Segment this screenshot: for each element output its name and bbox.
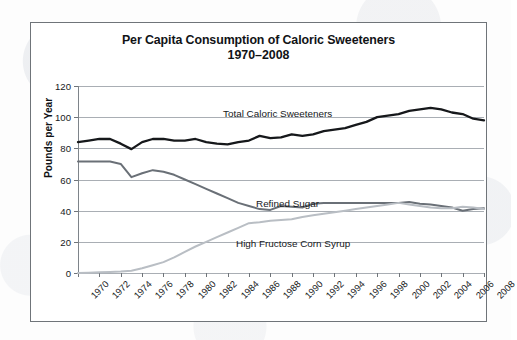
y-axis-tick-label: 20 <box>60 236 71 247</box>
x-axis-tick <box>441 273 442 277</box>
x-axis-tick-label: 1996 <box>367 279 389 301</box>
x-axis-tick-label: 1992 <box>324 279 346 301</box>
x-axis-tick <box>356 273 357 277</box>
x-axis-tick-label: 1990 <box>303 279 325 301</box>
x-axis-tick <box>121 273 122 277</box>
plot-wrap: 020406080100120 197019721974197619781980… <box>31 23 486 321</box>
series-label-high-fructose-corn-syrup: High Fructose Corn Syrup <box>236 238 350 249</box>
x-axis-tick <box>377 273 378 277</box>
x-axis-tick <box>99 273 100 277</box>
y-axis-tick-label: 120 <box>55 81 71 92</box>
x-axis-tick <box>313 273 314 277</box>
x-axis-tick-label: 1986 <box>260 279 282 301</box>
x-axis-tick-label: 1974 <box>132 279 154 301</box>
x-axis-tick <box>420 273 421 277</box>
x-axis-tick-label: 2004 <box>452 279 474 301</box>
x-axis-tick <box>334 273 335 277</box>
x-axis-tick-label: 1998 <box>388 279 410 301</box>
x-axis-tick-label: 1978 <box>175 279 197 301</box>
x-axis-tick-label: 2002 <box>431 279 453 301</box>
y-axis-tick-label: 0 <box>66 268 71 279</box>
x-axis-tick <box>292 273 293 277</box>
x-axis-tick-label: 1982 <box>217 279 239 301</box>
x-axis-tick <box>228 273 229 277</box>
x-axis-tick <box>206 273 207 277</box>
plot-area: 020406080100120 197019721974197619781980… <box>78 86 484 273</box>
x-axis-tick-label: 1988 <box>281 279 303 301</box>
x-axis-tick-label: 1980 <box>196 279 218 301</box>
x-axis-tick <box>185 273 186 277</box>
x-axis-tick-label: 1984 <box>239 279 261 301</box>
chart-figure-frame: Per Capita Consumption of Caloric Sweete… <box>30 22 487 322</box>
x-axis-tick <box>463 273 464 277</box>
x-axis-tick-label: 1972 <box>110 279 132 301</box>
x-axis-tick <box>249 273 250 277</box>
x-axis-tick <box>270 273 271 277</box>
series-label-refined-sugar: Refined Sugar <box>256 198 319 209</box>
x-axis-tick <box>163 273 164 277</box>
x-axis-tick <box>484 273 485 277</box>
x-axis-tick <box>142 273 143 277</box>
x-axis-tick-label: 1976 <box>153 279 175 301</box>
gridline <box>78 273 484 274</box>
x-axis-tick <box>399 273 400 277</box>
x-axis-tick-label: 1994 <box>345 279 367 301</box>
y-axis-tick-label: 80 <box>60 143 71 154</box>
y-axis-tick-label: 60 <box>60 174 71 185</box>
y-axis-tick-label: 100 <box>55 112 71 123</box>
y-axis-tick-label: 40 <box>60 205 71 216</box>
series-label-total-caloric-sweeteners: Total Caloric Sweeteners <box>223 108 332 119</box>
x-axis-tick-label: 2000 <box>410 279 432 301</box>
x-axis-tick-label: 1970 <box>89 279 111 301</box>
